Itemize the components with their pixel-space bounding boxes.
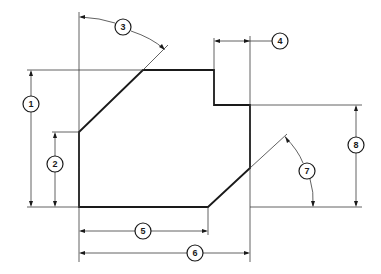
part-outline bbox=[79, 70, 250, 207]
callout-label-2: 2 bbox=[52, 159, 57, 169]
dimension-8: 8 bbox=[348, 105, 364, 207]
dimension-drawing: 1 2 3 4 5 bbox=[0, 0, 381, 274]
callout-label-5: 5 bbox=[140, 226, 145, 236]
callout-label-7: 7 bbox=[304, 166, 309, 176]
dimension-3: 3 bbox=[79, 15, 165, 50]
callout-label-3: 3 bbox=[120, 22, 125, 32]
dimension-1: 1 bbox=[23, 70, 39, 207]
dimension-7: 7 bbox=[285, 136, 315, 207]
dimension-5: 5 bbox=[79, 223, 208, 239]
dimension-6: 6 bbox=[79, 245, 250, 261]
callout-label-8: 8 bbox=[353, 140, 358, 150]
dimension-4: 4 bbox=[214, 33, 288, 49]
extension-lines bbox=[27, 12, 362, 262]
dimension-2: 2 bbox=[47, 132, 63, 207]
callout-label-6: 6 bbox=[192, 248, 197, 258]
callout-label-1: 1 bbox=[28, 99, 33, 109]
callout-label-4: 4 bbox=[277, 36, 282, 46]
